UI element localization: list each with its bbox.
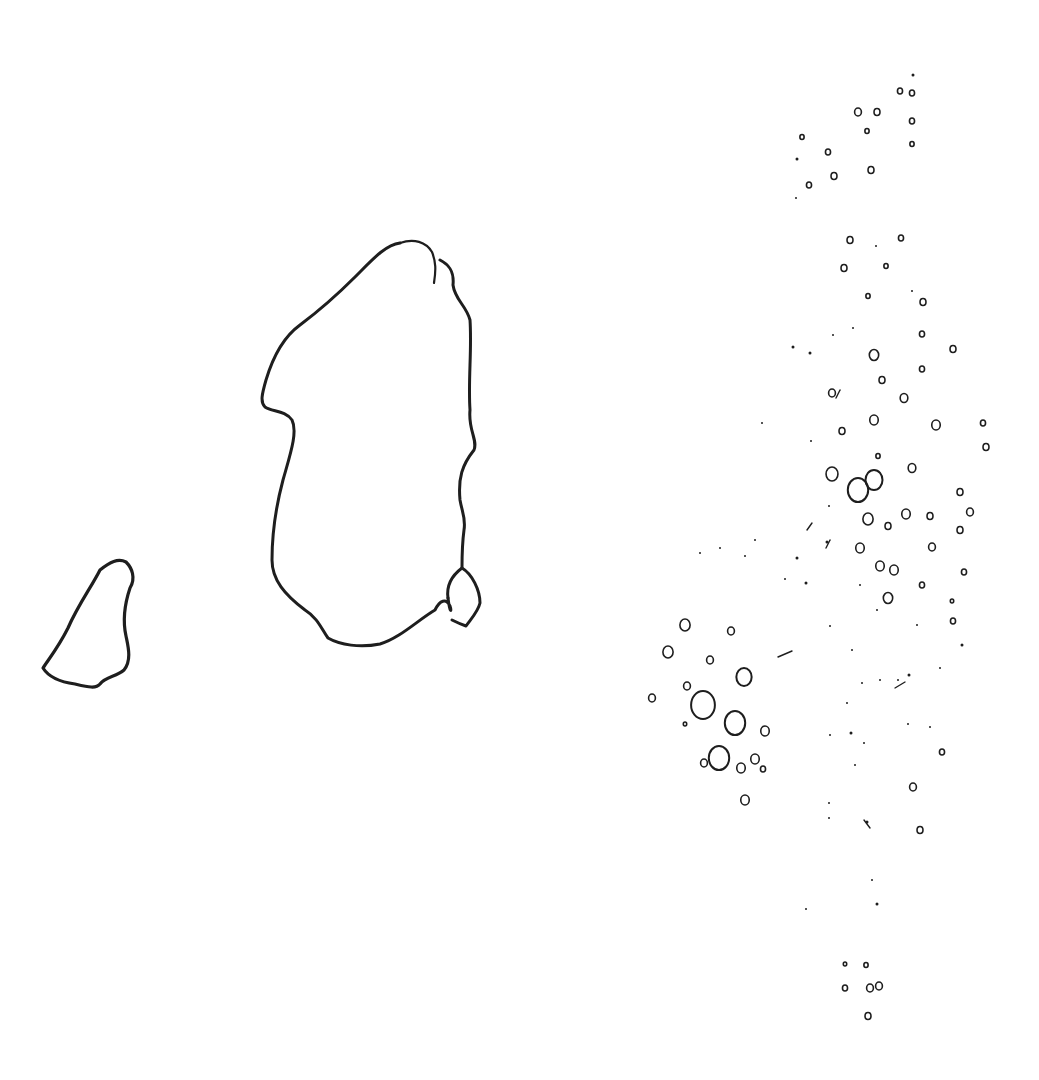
ink-dot	[828, 505, 830, 507]
ink-dot	[792, 346, 795, 349]
ink-dot	[809, 352, 812, 355]
ink-dot	[912, 74, 915, 77]
ink-dot	[829, 734, 831, 736]
ink-dot	[916, 624, 918, 626]
ink-dot	[699, 552, 701, 554]
ink-dot	[805, 582, 808, 585]
ink-dot	[846, 702, 848, 704]
ink-dot	[854, 764, 856, 766]
ink-dot	[852, 327, 854, 329]
ink-dot	[744, 555, 746, 557]
ink-dot	[796, 158, 799, 161]
ink-dot	[850, 732, 853, 735]
ink-dot	[907, 723, 909, 725]
paper-background	[0, 0, 1039, 1080]
ink-dot	[719, 547, 721, 549]
ink-dot	[897, 679, 899, 681]
ink-dot	[805, 908, 807, 910]
ink-dot	[796, 557, 799, 560]
ink-dot	[863, 742, 865, 744]
sketch-canvas	[0, 0, 1039, 1080]
ink-dot	[879, 679, 881, 681]
ink-dot	[859, 584, 861, 586]
ink-dot	[871, 879, 873, 881]
ink-dot	[761, 422, 763, 424]
ink-dot	[754, 539, 756, 541]
ink-dot	[861, 682, 863, 684]
ink-dot	[875, 245, 877, 247]
ink-dot	[828, 817, 830, 819]
ink-dot	[876, 609, 878, 611]
ink-dot	[961, 644, 964, 647]
ink-dot	[810, 440, 812, 442]
ink-dot	[828, 802, 830, 804]
ink-dot	[795, 197, 797, 199]
ink-dot	[829, 625, 831, 627]
ink-dot	[784, 578, 786, 580]
ink-dot	[911, 290, 913, 292]
ink-dot	[832, 334, 834, 336]
ink-dot	[929, 726, 931, 728]
ink-dot	[851, 649, 853, 651]
ink-dot	[939, 667, 941, 669]
ink-dot	[908, 674, 911, 677]
ink-dot	[876, 903, 879, 906]
